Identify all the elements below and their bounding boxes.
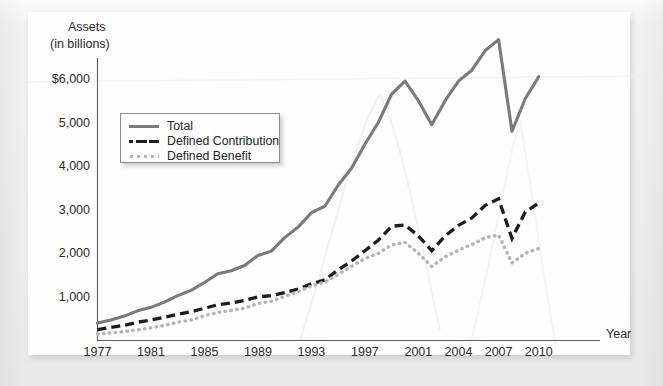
x-tick-label: 1977	[84, 345, 112, 359]
y-tick-label: 1,000	[28, 290, 90, 304]
y-tick-label: 3,000	[28, 203, 90, 217]
x-tick-label: 1997	[351, 345, 379, 359]
y-axis-title-line2: (in billions)	[50, 37, 110, 51]
y-tick-label: 5,000	[28, 116, 90, 130]
chart-screenshot: $6,0005,0004,0003,0002,0001,000 19771981…	[0, 0, 663, 386]
x-tick-label: 1985	[191, 345, 219, 359]
x-tick-label: 1989	[244, 345, 272, 359]
y-axis-title-line1: Assets	[68, 20, 106, 34]
chart-legend: Total Defined Contribution Defined Benef…	[120, 113, 280, 163]
legend-item-defined-benefit: Defined Benefit	[129, 149, 279, 163]
legend-item-total: Total	[129, 119, 279, 133]
x-tick-label: 2001	[404, 345, 432, 359]
x-tick-label: 2007	[485, 345, 513, 359]
x-axis-title: Year	[606, 327, 631, 341]
y-tick-label: 2,000	[28, 246, 90, 260]
legend-item-defined-contribution: Defined Contribution	[129, 134, 279, 148]
legend-label-defined-benefit: Defined Benefit	[167, 150, 251, 163]
chart-card	[28, 12, 630, 355]
legend-swatch-solid-line-icon	[129, 120, 159, 132]
x-tick-label: 2004	[445, 345, 473, 359]
x-tick-label: 2010	[525, 345, 553, 359]
y-tick-label: 4,000	[28, 159, 90, 173]
legend-label-total: Total	[167, 120, 193, 133]
legend-swatch-dashed-line-icon	[129, 135, 159, 147]
x-tick-label: 1993	[298, 345, 326, 359]
legend-swatch-dotted-line-icon	[129, 150, 159, 162]
legend-label-defined-contribution: Defined Contribution	[167, 135, 279, 148]
y-tick-label: $6,000	[28, 72, 90, 86]
x-tick-label: 1981	[137, 345, 165, 359]
